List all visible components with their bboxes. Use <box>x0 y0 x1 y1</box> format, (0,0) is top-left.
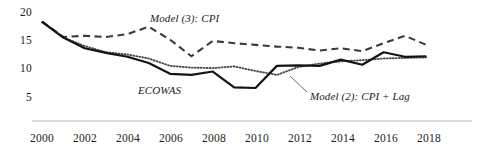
series-line-ecowas <box>42 22 426 88</box>
annotation-leader-line <box>290 76 307 92</box>
plot-area <box>0 0 478 160</box>
chart-figure: 20 15 10 5 2000 2002 2004 2006 2008 2010… <box>0 0 478 160</box>
series-paths <box>42 22 426 88</box>
